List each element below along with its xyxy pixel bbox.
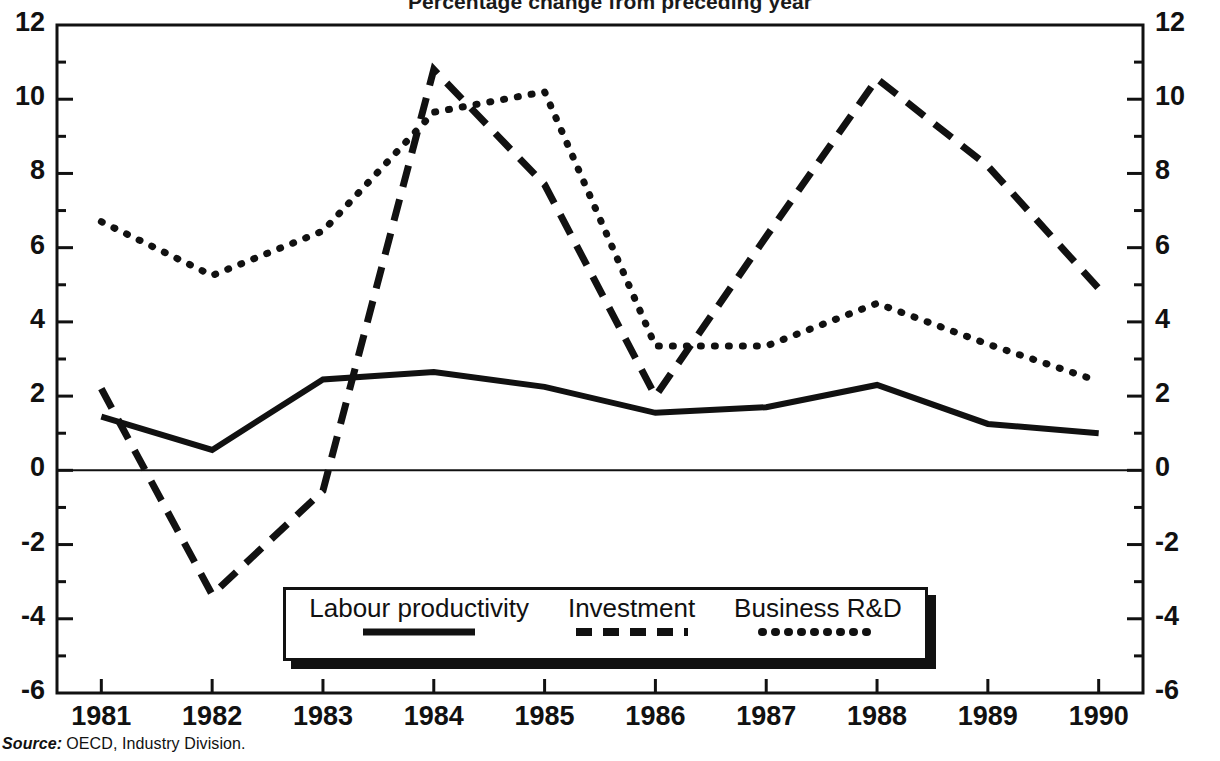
series-line-solid [101,372,1098,450]
y-axis-right-tick-label: 8 [1155,155,1170,186]
y-axis-right-tick-label: -4 [1155,601,1179,632]
legend-item: Investment [552,595,712,636]
x-axis-tick-label: 1985 [485,701,605,732]
legend-item: Business R&D [734,595,902,636]
y-axis-left-tick-label: 4 [0,304,45,335]
y-axis-left-tick-label: 12 [0,7,45,38]
legend-label: Labour productivity [309,595,529,622]
y-axis-left-tick-label: 8 [0,155,45,186]
y-axis-right-tick-label: 0 [1155,452,1170,483]
y-axis-right-tick-label: -2 [1155,527,1179,558]
y-axis-left-tick-label: -2 [0,527,45,558]
x-axis-tick-label: 1982 [152,701,272,732]
y-axis-right-tick-label: 12 [1155,7,1185,38]
y-axis-right-tick-label: 2 [1155,378,1170,409]
x-axis-tick-label: 1988 [817,701,937,732]
x-axis-tick-label: 1989 [928,701,1048,732]
series-layer [101,70,1098,595]
legend-item: Labour productivity [309,595,529,636]
x-axis-tick-label: 1987 [706,701,826,732]
x-axis-tick-label: 1981 [41,701,161,732]
x-axis-tick-label: 1990 [1039,701,1159,732]
series-line-dashed [101,70,1098,595]
y-axis-left-tick-label: -4 [0,601,45,632]
source-note: Source:OECD, Industry Division. [2,735,246,753]
chart-legend: Labour productivityInvestmentBusiness R&… [283,587,928,661]
y-axis-left-tick-label: 10 [0,81,45,112]
x-axis-tick-label: 1986 [595,701,715,732]
legend-swatch-solid [339,626,499,636]
chart-figure: Percentage change from preceding year 12… [0,0,1220,761]
legend-swatch-dashed [552,626,712,636]
source-label: Source: [2,735,62,752]
y-axis-left-tick-label: 2 [0,378,45,409]
legend-swatch-dotted [738,626,898,636]
legend-label: Business R&D [734,595,902,622]
source-text: OECD, Industry Division. [66,735,245,752]
legend-label: Investment [568,595,695,622]
y-axis-right-tick-label: 6 [1155,230,1170,261]
y-axis-right-tick-label: 4 [1155,304,1170,335]
y-axis-left-tick-label: 0 [0,452,45,483]
y-axis-left-tick-label: 6 [0,230,45,261]
y-axis-left-tick-label: -6 [0,675,45,706]
y-axis-right-tick-label: 10 [1155,81,1185,112]
x-axis-tick-label: 1983 [263,701,383,732]
x-axis-tick-label: 1984 [374,701,494,732]
